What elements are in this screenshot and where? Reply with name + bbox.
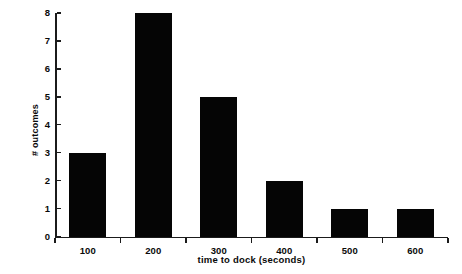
y-axis-tick-label: 4 <box>24 119 50 130</box>
y-axis-tick <box>57 40 61 41</box>
bar <box>135 13 172 237</box>
x-axis-tick <box>251 238 252 243</box>
y-axis-tick-label: 3 <box>24 147 50 158</box>
x-axis-tick <box>120 238 121 243</box>
y-axis-line <box>55 13 57 238</box>
y-axis-tick-label: 0 <box>24 231 50 242</box>
x-axis-tick <box>316 238 317 243</box>
bar <box>200 97 237 237</box>
y-axis-tick-label: 6 <box>24 63 50 74</box>
y-axis-tick-label: 5 <box>24 91 50 102</box>
y-axis-tick <box>57 236 61 237</box>
y-axis-tick <box>57 124 61 125</box>
x-axis-title: time to dock (seconds) <box>55 254 448 265</box>
y-axis-tick-label: 2 <box>24 175 50 186</box>
bar <box>331 209 368 237</box>
y-axis-tick-label: 8 <box>24 7 50 18</box>
y-axis-tick <box>57 12 61 13</box>
x-axis-tick <box>54 238 55 243</box>
y-axis-tick-label: 1 <box>24 203 50 214</box>
bar <box>69 153 106 237</box>
y-axis-tick <box>57 68 61 69</box>
bar-chart-figure: # outcomes 012345678 100200300400500600 … <box>0 0 462 274</box>
x-axis-tick <box>382 238 383 243</box>
bar <box>266 181 303 237</box>
y-axis-title: # outcomes <box>30 50 40 210</box>
bar <box>397 209 434 237</box>
y-axis-tick <box>57 208 61 209</box>
y-axis-tick <box>57 152 61 153</box>
x-axis-tick <box>447 238 448 243</box>
y-axis-tick <box>57 96 61 97</box>
y-axis-tick <box>57 180 61 181</box>
x-axis-tick <box>185 238 186 243</box>
y-axis-tick-label: 7 <box>24 35 50 46</box>
